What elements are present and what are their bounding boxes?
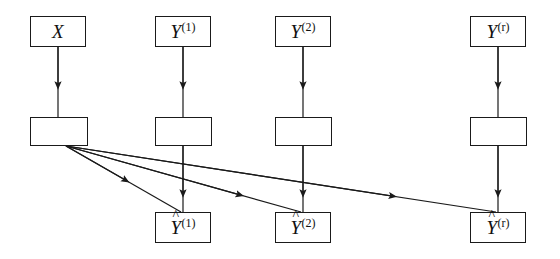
edge-group-processor-to-prediction	[183, 146, 498, 212]
node-processor-y2[interactable]	[275, 117, 332, 146]
node-label-prediction-yr: Y^(r)	[487, 217, 510, 238]
node-label-y1: Y(1)	[171, 21, 196, 42]
diagram-canvas: X Y(1) Y(2) Y(r) Y^(1) Y^(2) Y^(r)	[0, 0, 560, 259]
edge-group-input-to-processor	[58, 47, 498, 117]
node-label-x: X	[52, 22, 64, 42]
node-label-prediction-y2: Y^(2)	[291, 217, 316, 238]
node-processor-y1[interactable]	[155, 117, 212, 146]
node-target-y2[interactable]: Y(2)	[275, 16, 331, 47]
node-input-x[interactable]: X	[30, 16, 86, 47]
node-prediction-y1[interactable]: Y^(1)	[155, 212, 211, 243]
P0-to-Yhat2-arrow	[66, 146, 240, 195]
node-target-yr[interactable]: Y(r)	[470, 16, 526, 47]
node-label-prediction-y1: Y^(1)	[171, 217, 196, 238]
edge-group-shared-representation	[66, 146, 496, 212]
node-processor-x[interactable]	[30, 117, 88, 146]
node-label-y2: Y(2)	[291, 21, 316, 42]
node-target-y1[interactable]: Y(1)	[155, 16, 211, 47]
node-prediction-y2[interactable]: Y^(2)	[275, 212, 331, 243]
P0-to-Yhatr-arrow	[66, 146, 393, 196]
node-processor-yr[interactable]	[470, 117, 527, 146]
node-prediction-yr[interactable]: Y^(r)	[470, 212, 526, 243]
node-label-yr: Y(r)	[487, 21, 510, 42]
